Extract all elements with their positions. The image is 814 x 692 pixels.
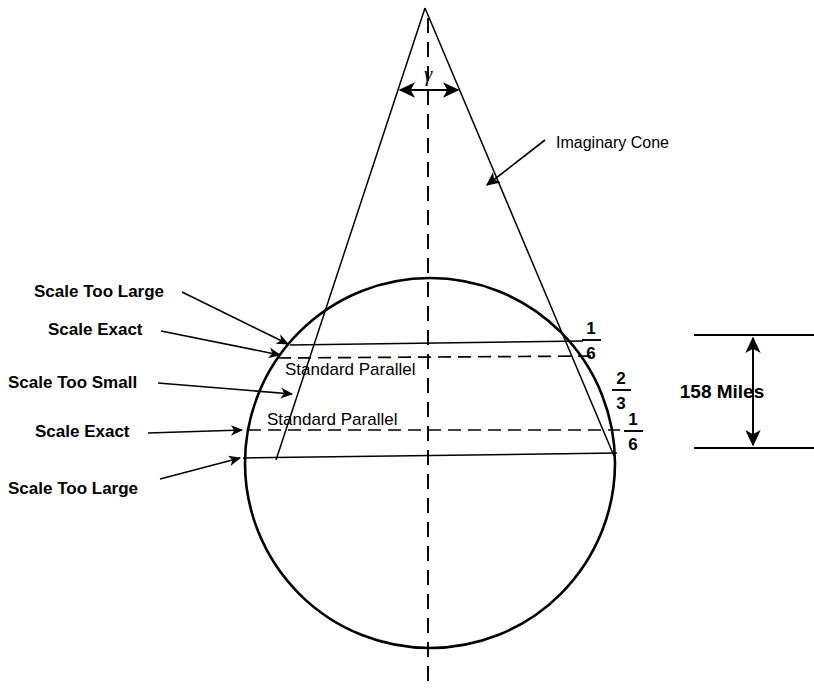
label-scale-too-large-top: Scale Too Large — [34, 282, 164, 301]
imaginary-cone-leader — [487, 140, 545, 185]
scale-bar-label: 158 Miles — [680, 381, 765, 402]
fraction-middle-group: 2 3 — [612, 369, 631, 413]
label-scale-too-small: Scale Too Small — [8, 373, 137, 392]
imaginary-cone-callout: Imaginary Cone — [487, 134, 669, 185]
lower-chord-line — [243, 453, 617, 458]
leader-scale-too-large-bottom — [160, 458, 240, 479]
fraction-upper-denominator: 6 — [586, 344, 595, 363]
label-scale-exact-bottom: Scale Exact — [35, 422, 130, 441]
imaginary-cone-group — [276, 8, 614, 460]
diagram-canvas: γ Imaginary Cone Standard Parallel Stand… — [0, 0, 814, 692]
globe-circle — [245, 278, 615, 648]
lower-standard-parallel-label: Standard Parallel — [267, 410, 397, 429]
upper-standard-parallel-line — [278, 356, 596, 358]
fraction-middle-numerator: 2 — [616, 369, 625, 388]
upper-chord-line — [290, 341, 583, 345]
leader-scale-exact-bottom — [148, 430, 242, 433]
fraction-lower-numerator: 1 — [628, 410, 637, 429]
fraction-upper-numerator: 1 — [586, 319, 595, 338]
imaginary-cone-label: Imaginary Cone — [556, 134, 669, 151]
scale-bar-group: 158 Miles — [680, 335, 814, 448]
fraction-lower-denominator: 6 — [628, 435, 637, 454]
left-annotations-group: Scale Too Large Scale Exact Scale Too Sm… — [8, 282, 292, 498]
fraction-middle-denominator: 3 — [616, 394, 625, 413]
projection-diagram-svg: γ Imaginary Cone Standard Parallel Stand… — [0, 0, 814, 692]
leader-scale-exact-top — [161, 331, 280, 355]
gamma-symbol: γ — [424, 62, 433, 86]
parallel-lines-group — [243, 341, 620, 458]
upper-standard-parallel-label: Standard Parallel — [285, 360, 415, 379]
fraction-lower-group: 1 6 — [624, 410, 643, 454]
leader-scale-too-large-top — [182, 292, 288, 344]
label-scale-exact-top: Scale Exact — [48, 320, 143, 339]
label-scale-too-large-bottom: Scale Too Large — [8, 479, 138, 498]
cone-left-slant — [276, 8, 425, 460]
leader-scale-too-small — [158, 383, 292, 394]
cone-right-slant — [425, 8, 614, 456]
